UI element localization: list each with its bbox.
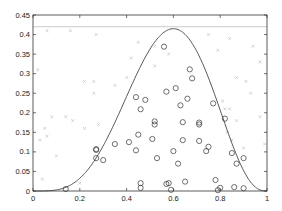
y-tick-label: 0.4 xyxy=(20,30,30,39)
y-tick-label: 0.05 xyxy=(15,167,30,176)
x-tick-label: 0 xyxy=(31,194,35,203)
y-tick-label: 0.45 xyxy=(15,11,30,20)
x-tick-label: 0.4 xyxy=(121,194,131,203)
plot-area xyxy=(33,15,267,191)
y-tick-label: 0.1 xyxy=(20,147,30,156)
y-tick-label: 0.25 xyxy=(15,89,30,98)
y-tick-label: 0 xyxy=(26,187,30,196)
y-tick-label: 0.2 xyxy=(20,108,30,117)
y-tick-label: 0.15 xyxy=(15,128,30,137)
x-tick-label: 0.6 xyxy=(168,194,178,203)
rejection-sampling-chart: 00.20.40.60.8100.050.10.150.20.250.30.35… xyxy=(0,0,282,211)
x-tick-label: 0.8 xyxy=(215,194,225,203)
x-tick-label: 0.2 xyxy=(75,194,85,203)
y-tick-label: 0.35 xyxy=(15,50,30,59)
y-tick-label: 0.3 xyxy=(20,69,30,78)
x-tick-label: 1 xyxy=(265,194,269,203)
